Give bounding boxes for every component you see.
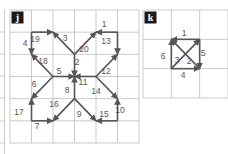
arrow-number-label: 2 <box>187 56 192 66</box>
arrow-4: 4 <box>171 69 199 80</box>
arrow-19: 19 <box>30 32 53 44</box>
arrow-6: 6 <box>32 77 54 99</box>
arrow-17: 17 <box>14 99 31 121</box>
arrow-3: 3 <box>53 32 75 54</box>
arrow-number-label: 14 <box>91 86 101 96</box>
arrow-18: 18 <box>32 54 54 76</box>
arrow-number-label: 20 <box>79 44 89 54</box>
arrow-number-label: 8 <box>65 85 70 95</box>
arrow-number-label: 19 <box>30 34 40 44</box>
arrow-7: 7 <box>32 121 54 131</box>
arrow-number-label: 17 <box>14 107 24 117</box>
arrow-number-label: 5 <box>201 48 206 58</box>
arrow-number-label: 10 <box>115 105 125 115</box>
arrow-9: 9 <box>75 99 97 121</box>
arrow-number-label: 2 <box>75 57 80 67</box>
arrow-number-label: 12 <box>101 66 111 76</box>
arrow-number-label: 9 <box>77 109 82 119</box>
panel-label-badge: j <box>12 12 24 24</box>
arrow-6: 6 <box>161 39 172 68</box>
neighbor-panel-edge <box>0 10 5 154</box>
arrow-number-label: 18 <box>38 56 48 66</box>
arrow-number-label: 3 <box>175 55 180 65</box>
arrow-number-label: 1 <box>102 19 107 29</box>
arrow-number-label: 13 <box>101 36 111 46</box>
arrow-number-label: 16 <box>49 99 59 109</box>
arrow-number-label: 11 <box>79 77 88 87</box>
panel-j: j1234567891011121314151617181920 <box>10 10 139 143</box>
arrow-number-label: 3 <box>63 33 68 43</box>
arrow-13: 13 <box>101 32 117 54</box>
arrow-5: 5 <box>200 39 206 68</box>
panel-k: k123456 <box>143 10 228 98</box>
arrow-1: 1 <box>171 28 199 39</box>
arrow-number-label: 7 <box>35 121 40 131</box>
arrow-8: 8 <box>65 77 75 99</box>
arrow-5: 5 <box>53 66 75 77</box>
panel-label: j <box>15 12 19 23</box>
panel-label-badge: k <box>145 12 157 24</box>
arrow-number-label: 15 <box>99 109 109 119</box>
arrow-number-label: 5 <box>57 66 62 76</box>
arrow-number-label: 4 <box>181 70 186 80</box>
arrow-number-label: 6 <box>161 51 166 61</box>
arrow-15: 15 <box>96 109 118 121</box>
arrow-grid-diagram: j1234567891011121314151617181920k123456 <box>0 0 228 154</box>
panel-label: k <box>148 12 154 23</box>
arrow-10: 10 <box>115 99 125 121</box>
arrow-20: 20 <box>75 32 97 54</box>
arrow-12: 12 <box>96 54 118 76</box>
arrow-1: 1 <box>96 19 118 32</box>
arrow-number-label: 1 <box>182 28 187 38</box>
arrow-number-label: 4 <box>23 38 28 48</box>
arrow-2: 2 <box>75 54 80 76</box>
arrow-14: 14 <box>91 77 117 99</box>
arrow-number-label: 6 <box>32 79 37 89</box>
